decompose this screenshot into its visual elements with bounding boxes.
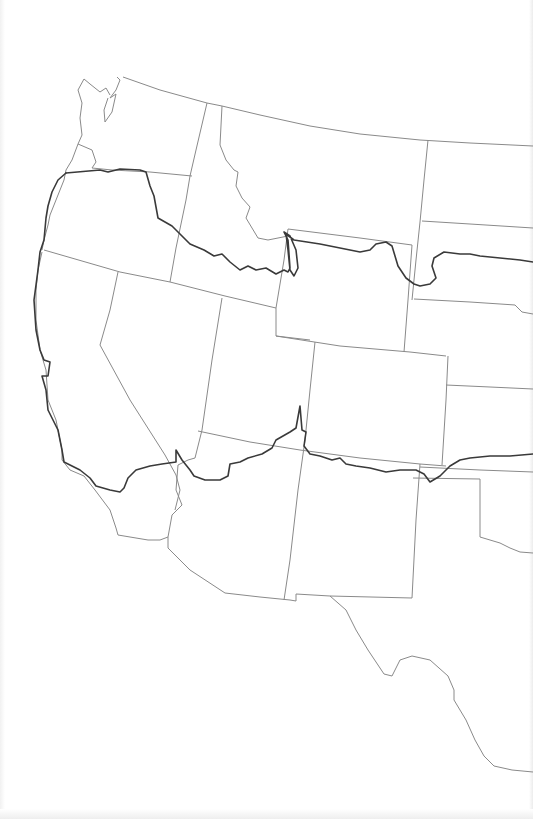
kansas-oklahoma-border <box>420 467 533 472</box>
route-line <box>66 169 533 286</box>
route-line-coast <box>34 173 533 492</box>
arizona-west-border <box>168 460 290 600</box>
utah-arizona-border <box>198 431 446 466</box>
state-washington <box>78 79 192 176</box>
idaho-west-border <box>170 103 207 282</box>
nevada-utah-border <box>188 298 222 460</box>
us-west-outline-map <box>0 0 533 819</box>
nevada-west-border <box>100 272 176 475</box>
oklahoma-panhandle <box>413 478 533 553</box>
utah-colorado-border <box>284 342 315 600</box>
wyoming-east-border <box>404 245 412 352</box>
oregon-south-border <box>44 250 276 308</box>
rio-grande-border <box>330 596 533 772</box>
canada-border <box>123 77 533 146</box>
montana-dakota-border <box>412 140 428 300</box>
washington-puget <box>84 79 110 95</box>
state-washington-sound <box>104 77 120 122</box>
idaho-montana-border <box>220 106 288 240</box>
newmexico-east-border <box>412 464 420 598</box>
wyoming-west-border <box>276 229 310 340</box>
map-page <box>0 0 533 819</box>
colorado-east-border <box>442 356 448 465</box>
southdakota-nebraska-border <box>414 299 533 314</box>
newmexico-mexico-border <box>290 594 412 601</box>
nebraska-kansas-border <box>446 385 533 389</box>
northdakota-southdakota-border <box>422 221 533 228</box>
oregon-coast <box>42 144 78 250</box>
california-coast-south <box>36 252 168 540</box>
